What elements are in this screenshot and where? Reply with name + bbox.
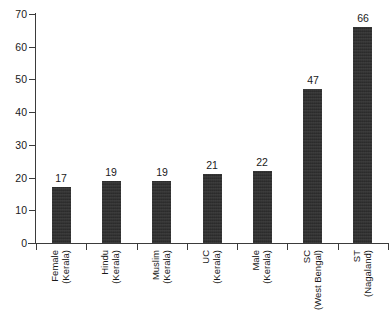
y-axis-tick-label: 10 xyxy=(0,205,27,215)
x-axis-category-label: ST(Nagaland) xyxy=(352,250,374,314)
category-group-name: Muslim xyxy=(151,250,162,314)
category-group-name: UC xyxy=(201,250,212,314)
x-axis-category-label: Muslim(Kerala) xyxy=(151,250,173,314)
bar-chart: 010203040506070 17191921224766 Female(Ke… xyxy=(0,0,392,316)
x-axis-line xyxy=(28,243,388,244)
x-axis-tick xyxy=(137,243,138,250)
x-axis-tick xyxy=(237,243,238,250)
bar-value-label: 19 xyxy=(96,167,126,178)
bar xyxy=(152,181,171,243)
x-axis-tick xyxy=(86,243,87,250)
x-axis-category-label: Female(Kerala) xyxy=(50,250,72,314)
y-axis-tick xyxy=(29,47,36,48)
y-axis-tick-label: 20 xyxy=(0,173,27,183)
y-axis-tick xyxy=(29,210,36,211)
bar-value-label: 21 xyxy=(197,160,227,171)
category-region-name: (Kerala) xyxy=(111,250,122,314)
y-axis-tick-label: 0 xyxy=(0,238,27,248)
y-axis-tick-label-text: 70 xyxy=(1,9,27,19)
bar xyxy=(353,27,372,243)
y-axis-tick-label-text: 50 xyxy=(1,74,27,84)
y-axis-tick-label-text: 40 xyxy=(1,107,27,117)
x-axis-category-label: SC(West Bengal) xyxy=(302,250,324,314)
x-axis-category-label: Hindu(Kerala) xyxy=(100,250,122,314)
bar xyxy=(303,89,322,243)
x-axis-tick xyxy=(388,243,389,250)
category-group-name: ST xyxy=(352,250,363,314)
bar xyxy=(203,174,222,243)
y-axis-tick xyxy=(29,14,36,15)
category-region-name: (West Bengal) xyxy=(313,250,324,314)
bar-value-label: 22 xyxy=(247,157,277,168)
category-region-name: (Kerala) xyxy=(61,250,72,314)
plot-area xyxy=(36,14,388,243)
category-group-name: Female xyxy=(50,250,61,314)
bar-value-label: 17 xyxy=(46,173,76,184)
y-axis-tick-label-text: 20 xyxy=(1,173,27,183)
x-axis-category-label: UC(Kerala) xyxy=(201,250,223,314)
y-axis-tick-label: 50 xyxy=(0,74,27,84)
x-axis-tick xyxy=(287,243,288,250)
y-axis-tick-label-text: 10 xyxy=(1,205,27,215)
y-axis-tick-label: 30 xyxy=(0,140,27,150)
y-axis-tick-label-text: 30 xyxy=(1,140,27,150)
y-axis-tick-label-text: 0 xyxy=(1,238,27,248)
category-region-name: (Kerala) xyxy=(162,250,173,314)
y-axis-tick-label: 60 xyxy=(0,42,27,52)
bar xyxy=(102,181,121,243)
category-region-name: (Kerala) xyxy=(212,250,223,314)
bar-value-label: 47 xyxy=(298,75,328,86)
bar-value-label: 66 xyxy=(348,13,378,24)
x-axis-tick xyxy=(36,243,37,250)
x-axis-tick xyxy=(187,243,188,250)
y-axis-tick-label-text: 60 xyxy=(1,42,27,52)
y-axis-tick-label: 40 xyxy=(0,107,27,117)
x-axis-tick xyxy=(338,243,339,250)
category-group-name: SC xyxy=(302,250,313,314)
x-axis-category-label: Male(Kerala) xyxy=(251,250,273,314)
bar xyxy=(52,187,71,243)
category-region-name: (Nagaland) xyxy=(363,250,374,314)
y-axis-tick xyxy=(29,112,36,113)
category-group-name: Male xyxy=(251,250,262,314)
category-group-name: Hindu xyxy=(100,250,111,314)
category-region-name: (Kerala) xyxy=(262,250,273,314)
y-axis-tick xyxy=(29,243,36,244)
bar xyxy=(253,171,272,243)
y-axis-tick xyxy=(29,79,36,80)
y-axis-tick xyxy=(29,145,36,146)
y-axis-tick xyxy=(29,178,36,179)
y-axis-tick-label: 70 xyxy=(0,9,27,19)
bar-value-label: 19 xyxy=(147,167,177,178)
